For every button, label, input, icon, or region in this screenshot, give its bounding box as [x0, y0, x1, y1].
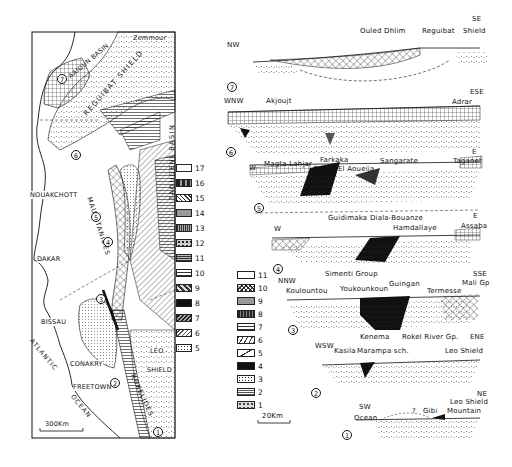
s3-label-termesse: Termesse — [427, 287, 461, 295]
s7-right-dir: SE — [472, 15, 481, 23]
s5-label-magta-lahjar: Magta Lahjar — [264, 160, 312, 168]
s4-label-guidimaka: Guidimaka — [328, 214, 367, 222]
section-legend-1: 1 — [237, 401, 263, 409]
s5-label-sangarate: Sangarate — [380, 157, 418, 165]
map-section-marker-5: 5 — [91, 212, 101, 222]
section-legend-2: 2 — [237, 388, 263, 396]
map-legend-7: 7 — [176, 314, 200, 322]
s1-left-dir: SW — [359, 403, 371, 411]
map-label-taoudeni-basin: TAOUDENI BASIN — [168, 124, 176, 200]
s7-label-reguibat: Reguibat — [422, 27, 455, 35]
s2-label-leo-shield: Leo Shield — [445, 347, 483, 355]
map-section-marker-1: 1 — [153, 427, 163, 437]
section-marker-5: 5 — [254, 203, 264, 213]
s4-label-assaba: Assaba — [461, 222, 487, 230]
s2-label-kenema: Kenema — [360, 333, 390, 341]
map-legend-14: 14 — [176, 209, 205, 217]
s3-right-dir: SSE — [473, 270, 487, 278]
s2-label-kasila: Kasila — [334, 347, 356, 355]
map-legend-6: 6 — [176, 329, 200, 337]
map-scale-label: 300Km — [45, 420, 69, 428]
section-marker-7: 7 — [227, 82, 237, 92]
section-legend-4: 4 — [237, 362, 263, 370]
map-section-marker-6: 6 — [71, 150, 81, 160]
map-label-bissau: BISSAU — [41, 318, 66, 326]
s6-label-akjoujt: Akjoujt — [266, 97, 292, 105]
s1-label-leo-shield: Leo Shield — [450, 398, 488, 406]
s4-label-diala-bouanze: Diala-Bouanze — [370, 214, 423, 222]
s4-right-dir: E — [473, 212, 478, 220]
s1-label-ocean: Ocean — [354, 414, 377, 422]
s3-label-youkounkoun: Youkounkoun — [340, 285, 388, 293]
section-legend-9: 9 — [237, 297, 263, 305]
s3-label-guingan: Guingan — [389, 280, 420, 288]
section-marker-4: 4 — [273, 264, 283, 274]
map-label-shield: SHIELD — [147, 366, 172, 374]
map-legend-9: 9 — [176, 284, 200, 292]
map-label-freetown: FREETOWN — [73, 383, 111, 391]
s2-right-dir: ENE — [470, 333, 485, 341]
s7-left-dir: NW — [227, 41, 240, 49]
section-legend-7: 7 — [237, 323, 263, 331]
map-legend-13: 13 — [176, 224, 205, 232]
section-marker-2: 2 — [311, 388, 321, 398]
s3-label-kouloun: Kouloun­tou — [286, 287, 328, 295]
s2-left-dir: WSW — [315, 342, 334, 350]
map-legend-5: 5 — [176, 344, 200, 352]
s1-label-gibi: Gibi — [423, 407, 438, 415]
map-legend-17: 17 — [176, 164, 205, 172]
s3-label-mali-gp: Mali Gp — [462, 279, 490, 287]
map-legend-11: 11 — [176, 254, 205, 262]
s5-label-el-aoueija: El Aoueija — [338, 165, 374, 173]
s5-label-farkaka: Farkaka — [320, 156, 348, 164]
s6-label-adrar: Adrar — [452, 98, 472, 106]
map-legend-8: 8 — [176, 299, 200, 307]
s5-right-dir: E — [472, 148, 477, 156]
s2-label-rokel-river: Rokel River Gp. — [402, 333, 459, 341]
map-legend-16: 16 — [176, 179, 205, 187]
s5-label-taganet: Taganet — [453, 157, 482, 165]
map-label-dakar: DAKAR — [37, 255, 60, 263]
s5-left-dir: W — [249, 164, 256, 172]
s7-label-ouled-dhlim: Ouled Dhlim — [360, 27, 406, 35]
section-scale-label: 20Km — [262, 412, 283, 420]
section-marker-6: 6 — [226, 147, 236, 157]
section-marker-1: 1 — [342, 430, 352, 440]
map-legend-12: 12 — [176, 239, 205, 247]
section-legend-5: 5 — [237, 349, 263, 357]
section-legend-6: 6 — [237, 336, 263, 344]
s6-right-dir: ESE — [470, 88, 484, 96]
map-section-marker-4: 4 — [103, 237, 113, 247]
s1-label-mountain: Mountain — [447, 407, 481, 415]
map-label-leo: LEO — [150, 347, 163, 355]
section-legend-3: 3 — [237, 375, 263, 383]
s7-right-label: Shield — [463, 27, 486, 35]
section-legend-10: 10 — [237, 284, 268, 292]
section-marker-3: 3 — [288, 325, 298, 335]
s6-left-dir: WNW — [224, 97, 244, 105]
map-section-marker-2: 2 — [110, 378, 120, 388]
map-section-marker-3: 3 — [96, 294, 106, 304]
section-legend-11: 11 — [237, 271, 268, 279]
s4-left-dir: W — [274, 225, 281, 233]
section-legend-8: 8 — [237, 310, 263, 318]
s2-label-marampa: Marampa sch. — [357, 347, 409, 355]
s4-label-hamdallaye: Hamdallaye — [393, 224, 437, 232]
map-legend-10: 10 — [176, 269, 205, 277]
s3-label-simenti-group: Simenti Group — [325, 270, 378, 278]
s3-left-dir: NNW — [278, 277, 296, 285]
map-section-marker-7: 7 — [57, 74, 67, 84]
map-label-zemmour: Zemmour — [133, 34, 166, 42]
s5-label-gaoua: Gaoua — [313, 165, 337, 173]
map-label-nouakchott: NOUAKCHOTT — [30, 191, 77, 199]
s1-right-dir: NE — [477, 390, 487, 398]
s1-label-question: ? — [412, 407, 416, 415]
map-legend-15: 15 — [176, 194, 205, 202]
map-label-conakry: CONAKRY — [70, 360, 103, 368]
